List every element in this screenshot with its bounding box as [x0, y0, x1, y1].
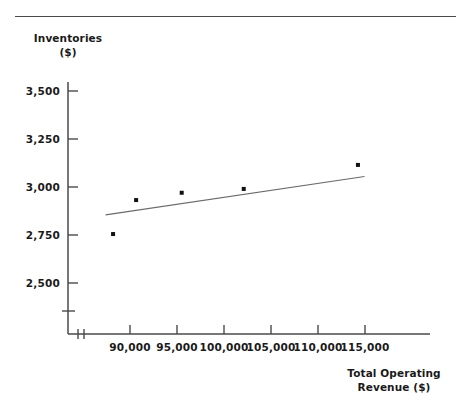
y-tick-label-3250: 3,250 — [8, 133, 60, 145]
y-tick-label-2500: 2,500 — [8, 277, 60, 289]
trend-line — [106, 176, 365, 214]
x-tick-label-115000: 115,000 — [335, 341, 395, 353]
data-point — [242, 187, 246, 191]
data-point — [111, 232, 115, 236]
data-point — [356, 163, 360, 167]
y-tick-label-3500: 3,500 — [8, 85, 60, 97]
data-point-group — [111, 163, 360, 236]
y-tick-label-2750: 2,750 — [8, 229, 60, 241]
scatter-chart-figure: Inventories ($) Total Operating Revenue … — [0, 0, 463, 403]
x-axis-ticks — [130, 325, 365, 334]
data-point — [134, 198, 138, 202]
data-point — [180, 191, 184, 195]
y-axis-ticks — [68, 91, 78, 283]
y-tick-label-3000: 3,000 — [8, 181, 60, 193]
